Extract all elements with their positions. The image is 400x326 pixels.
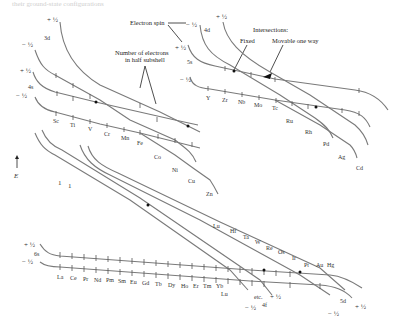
element-label: Pd [323,141,329,147]
element-label: Mn [121,135,129,141]
curve-5d-b [88,146,345,290]
element-label: Au [316,262,323,268]
element-label: Sm [118,278,126,284]
element-label: Pm [106,277,114,283]
spin-plus-label: + ½ [24,241,35,249]
element-label: Cu [188,178,195,184]
element-label: Ho [181,283,188,289]
fixed-label: Fixed [240,37,256,44]
element-label: Os [278,249,285,255]
element-label: Nb [238,99,245,105]
element-label: Ce [70,275,77,281]
element-label: Hf [230,228,236,234]
spin-plus-label: + ½ [175,44,186,52]
element-label: Tm [203,283,212,289]
num-electrons-label-line2: in half subshell [125,56,165,63]
spin-plus-label: + ½ [20,67,31,75]
element-label: Ni [172,167,178,173]
intersections-label: Intersections: [253,26,288,33]
up-arrow-icon [15,155,19,159]
curve-3d-minus-tail [140,133,218,194]
subshell-6s-label: 6s [34,251,40,257]
curve-4d-tail [275,100,357,158]
intersection-dot [299,271,302,274]
element-label: Ta [243,234,249,240]
element-label: Cd [356,165,363,171]
num-electrons-label-line1: Number of electrons [115,49,169,56]
spin-minus-label: − ½ [22,41,33,49]
period4-group: + ½ 3d − ½ + ½ 4s − ½ Sc Ti V Cr Mn Fe C… [16,16,218,197]
element-label: Lu [213,223,220,229]
subshell-5s-label: 5s [187,59,193,65]
element-label: W [255,239,261,245]
spin-plus-label: + ½ [355,303,366,311]
etc-label: etc. [254,294,263,300]
element-label: V [88,126,93,132]
spin-minus-label: − ½ [16,92,27,100]
element-label: Ru [286,118,293,124]
subshell-3d-label: 3d [44,35,50,41]
subshell-5d-label: 5d [340,298,346,304]
element-label: Sc [53,118,59,124]
element-label: Fe [137,140,143,146]
element-label: Eu [130,279,137,285]
intersection-dot [95,101,98,104]
spin-plus-label: + ½ [270,293,281,301]
element-label: Gd [142,280,149,286]
element-label: Mo [254,102,262,108]
fixed-intersection-dot [233,70,236,73]
element-label: Zn [206,191,213,197]
spin-minus-label: − ½ [328,310,339,318]
electron-spin-label: Electron spin [130,19,165,26]
element-label: Cr [104,131,110,137]
element-label: Yb [216,283,223,289]
annotations: Electron spin Number of electrons in hal… [115,19,319,104]
intersection-dot [187,125,190,128]
element-label: Re [266,245,273,251]
spin-minus-label: − ½ [186,21,197,29]
element-label: Co [154,154,161,160]
element-label: Dy [168,282,175,288]
element-label: Er [193,283,199,289]
curve-5s-minus [190,77,370,127]
element-label: Lu [221,291,228,297]
spin-minus-label: − ½ [245,304,256,312]
element-label: La [57,274,64,280]
element-label: Hg [327,262,334,268]
subshell-4s-label: 4s [28,84,34,90]
element-label: Pt [304,262,309,268]
element-label: Tc [272,105,278,111]
element-label: Rh [305,129,312,135]
count-label: 1 [58,179,62,187]
period6-ticks [60,252,320,289]
intersection-dot [147,204,150,207]
element-label: Ag [338,154,345,160]
element-label: Tb [155,281,162,287]
element-label: Ir [292,255,296,261]
subshell-4d-label: 4d [204,27,210,33]
element-label: Pr [83,276,88,282]
element-label: Y [206,95,211,101]
intersection-dot [315,106,318,109]
count-label: 1 [68,182,72,190]
spin-minus-label: − ½ [180,76,191,84]
energy-axis: E [13,155,19,180]
spin-minus-label: − ½ [22,258,33,266]
element-label: Ti [70,122,75,128]
subshell-4f-label: 4f [262,302,267,308]
spin-plus-label: + ½ [216,13,227,21]
intersection-dot [263,269,266,272]
element-label: Nd [94,277,101,283]
energy-axis-label: E [13,172,19,180]
movable-label: Movable one way [272,37,319,44]
spin-plus-label: + ½ [47,16,58,24]
orbital-energy-diagram: + ½ 3d − ½ + ½ 4s − ½ Sc Ti V Cr Mn Fe C… [0,0,400,326]
element-label: Zr [222,97,228,103]
